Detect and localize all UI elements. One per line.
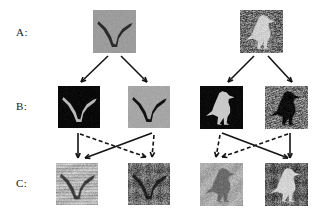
perched-mask-inverted-canvas <box>200 86 243 129</box>
retrieved-perched-bird-contrast-canvas <box>265 163 308 206</box>
retrieved-perched-bird-pale <box>200 163 243 206</box>
flight-mask-inverted <box>58 86 100 128</box>
retrieved-flying-bird-light <box>56 163 98 205</box>
arrow-a1-to-b1 <box>81 56 108 82</box>
arrow-b1-to-c1-solid <box>76 133 80 158</box>
perched-bird-query <box>240 10 283 53</box>
arrow-a2-to-b4 <box>268 56 292 82</box>
retrieved-perched-bird-contrast <box>265 163 308 206</box>
flight-silhouette <box>128 86 170 128</box>
row-label-c: C: <box>16 177 27 189</box>
retrieved-flying-bird-light-canvas <box>56 163 98 205</box>
arrow-b3-to-c3-dashed <box>215 135 220 157</box>
flight-mask-inverted-canvas <box>58 86 100 128</box>
row-label-a: A: <box>16 26 28 38</box>
retrieved-flying-bird-dark <box>128 163 170 205</box>
arrow-b1-to-c2-dashed <box>80 134 146 157</box>
flight-silhouette-canvas <box>128 86 170 128</box>
perched-silhouette <box>265 86 308 129</box>
arrow-b2-to-c1-solid <box>85 133 152 158</box>
figure-canvas: A: B: C: <box>0 0 333 220</box>
arrow-b4-to-c4-solid <box>288 133 292 158</box>
arrow-a2-to-b3 <box>228 56 254 82</box>
arrow-a1-to-b2 <box>121 56 147 82</box>
bird-in-flight-query-canvas <box>93 10 136 53</box>
perched-silhouette-canvas <box>265 86 308 129</box>
row-label-b: B: <box>16 100 27 112</box>
arrow-b3-to-c4-solid <box>222 133 288 158</box>
perched-bird-query-canvas <box>240 10 283 53</box>
arrow-b2-to-c2-dashed <box>150 135 154 157</box>
retrieved-flying-bird-dark-canvas <box>128 163 170 205</box>
perched-mask-inverted <box>200 86 243 129</box>
arrow-b4-to-c3-dashed <box>222 134 288 157</box>
bird-in-flight-query <box>93 10 136 53</box>
retrieved-perched-bird-pale-canvas <box>200 163 243 206</box>
